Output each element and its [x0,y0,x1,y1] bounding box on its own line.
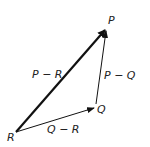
vertex-label-r: R [7,131,15,144]
vector-p-minus-r [16,30,105,132]
vertex-label-q: Q [97,103,106,116]
vertex-label-p: P [108,14,115,27]
vector-label-p-minus-q: P − Q [104,69,136,82]
vector-label-p-minus-r: P − R [32,68,63,81]
diagram-svg: P Q R P − R P − Q Q − R [0,0,150,147]
vector-p-minus-q [96,31,106,104]
vector-diagram: P Q R P − R P − Q Q − R [0,0,150,147]
vector-label-q-minus-r: Q − R [47,123,80,136]
